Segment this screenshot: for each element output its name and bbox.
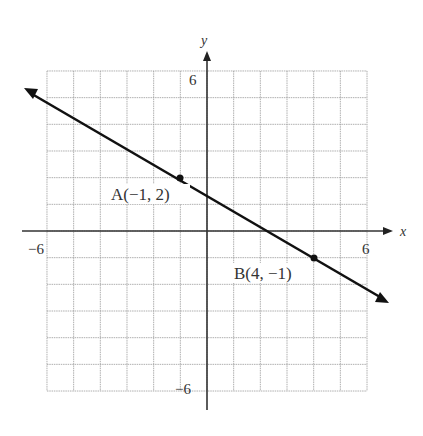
- line-right-arrow-icon: [375, 292, 389, 303]
- x-axis-label: x: [399, 224, 407, 239]
- x-axis-arrow-icon: [383, 227, 393, 235]
- point-b: [311, 255, 318, 262]
- y-axis-arrow-icon: [203, 51, 211, 61]
- point-b-label: B(4, −1): [234, 264, 292, 283]
- point-a-label: A(−1, 2): [111, 185, 170, 204]
- y-min-label: −6: [175, 381, 191, 397]
- y-axis-label: y: [199, 33, 208, 48]
- coordinate-plane: x y −6 6 6 −6 A(−1, 2) B(4, −1): [0, 0, 423, 436]
- point-a: [177, 175, 184, 182]
- x-max-label: 6: [362, 241, 370, 257]
- y-max-label: 6: [189, 72, 197, 88]
- x-min-label: −6: [28, 241, 44, 257]
